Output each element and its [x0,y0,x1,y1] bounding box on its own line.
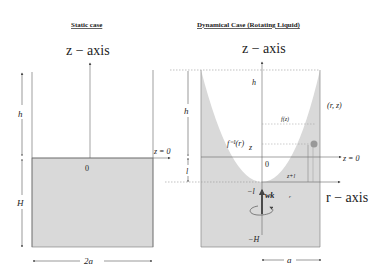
static-h-label: h [18,109,23,119]
diagram-canvas: Static case z − axis 0 z = 0 h H 2a Dyna… [0,0,385,277]
omega-label: wk [265,191,274,200]
static-case-title: Static case [71,21,102,29]
r-axis-label: r − axis [326,190,368,205]
static-H-label: H [16,198,24,208]
inverse-fn-label: f⁻¹(r) [227,139,244,148]
dynamical-origin-label: 0 [265,160,269,169]
static-case-panel: Static case z − axis 0 z = 0 h H 2a [16,21,171,267]
dynamical-surface-label: z = 0 [342,154,360,163]
point-rz-label: (r, z) [327,101,342,110]
static-z-axis-label: z − axis [66,43,110,58]
minus-l-label: −l [247,187,255,196]
point-rz [311,141,318,148]
static-surface-label: z = 0 [153,147,171,156]
dynamical-h-left-label: h [184,106,189,116]
z-label: z [248,143,253,152]
radius-label: a [287,255,292,265]
fz-label: f(z) [281,116,289,123]
minus-H-label: −H [248,235,260,244]
r-small-label: r [289,194,291,199]
static-width-label: 2a [84,256,94,266]
dynamical-z-axis-label: z − axis [242,41,286,56]
static-origin-label: 0 [85,164,89,173]
dynamical-case-panel: Dynamical Case (Rotating Liquid) z − axi… [165,21,368,266]
dynamical-h-top-label: h [252,78,256,87]
z-plus-l-label: z+l [286,173,295,179]
rotating-liquid [201,70,320,247]
dynamical-case-title: Dynamical Case (Rotating Liquid) [197,21,301,29]
static-liquid [32,158,153,247]
